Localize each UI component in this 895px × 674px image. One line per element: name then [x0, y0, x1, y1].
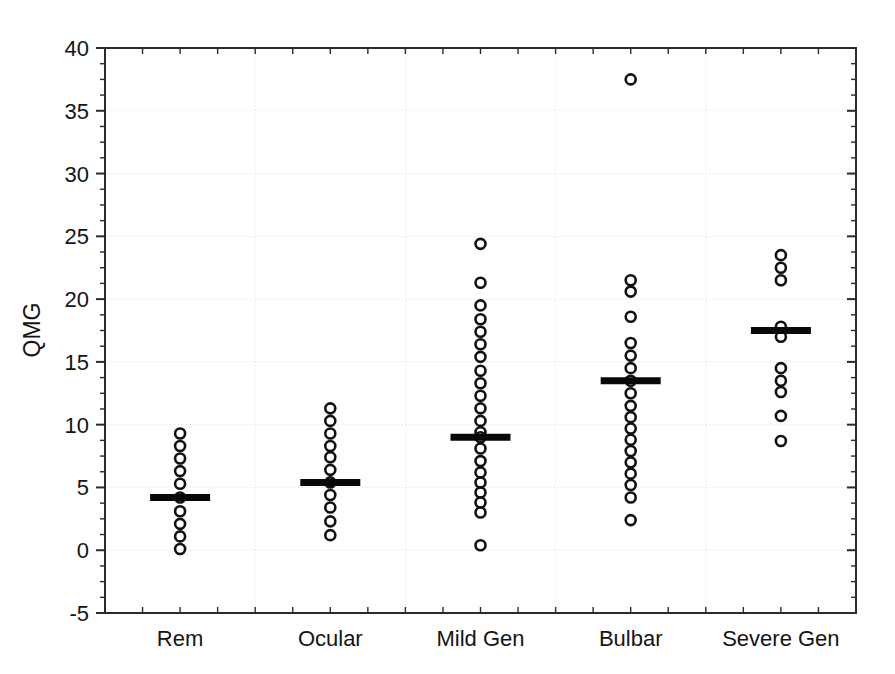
- data-point: [776, 250, 786, 260]
- data-point: [626, 275, 636, 285]
- data-point: [325, 441, 335, 451]
- y-axis-title: QMG: [19, 303, 45, 358]
- data-point: [476, 314, 486, 324]
- data-point: [776, 275, 786, 285]
- grid-layer: [106, 49, 855, 612]
- series-group-mild-gen: [451, 239, 511, 550]
- plot-frame: [105, 48, 856, 613]
- data-point: [325, 516, 335, 526]
- y-axis-tick-label: 20: [65, 287, 89, 312]
- y-axis-tick-label: 25: [65, 224, 89, 249]
- x-axis-category-label-1: Rem: [157, 626, 203, 651]
- x-axis-category-label-5: Severe Gen: [722, 626, 839, 651]
- data-point: [626, 312, 636, 322]
- data-point: [175, 544, 185, 554]
- data-point: [626, 469, 636, 479]
- data-point: [476, 239, 486, 249]
- data-point: [325, 490, 335, 500]
- data-point: [776, 387, 786, 397]
- data-point: [325, 530, 335, 540]
- data-point: [476, 391, 486, 401]
- data-point: [776, 376, 786, 386]
- data-point: [626, 363, 636, 373]
- data-point: [776, 436, 786, 446]
- data-point: [175, 454, 185, 464]
- data-point: [626, 480, 636, 490]
- data-point: [626, 457, 636, 467]
- y-axis-tick-labels: -50510152025303540: [65, 36, 89, 626]
- data-point: [476, 416, 486, 426]
- series-group-rem: [150, 428, 210, 554]
- series-group-severe-gen: [751, 250, 811, 446]
- data-point: [476, 508, 486, 518]
- chart-canvas: -50510152025303540 RemOcularMild GenBulb…: [0, 0, 895, 674]
- data-point: [776, 363, 786, 373]
- series-group-bulbar: [601, 74, 661, 525]
- x-axis-category-labels: RemOcularMild GenBulbarSevere Gen: [157, 626, 840, 651]
- y-axis-tick-label: 10: [65, 413, 89, 438]
- data-point: [476, 456, 486, 466]
- y-axis-tick-label: 35: [65, 99, 89, 124]
- data-point: [476, 444, 486, 454]
- y-axis-tick-label: 40: [65, 36, 89, 61]
- data-point: [476, 327, 486, 337]
- data-point: [626, 515, 636, 525]
- data-point: [325, 465, 335, 475]
- data-point: [175, 479, 185, 489]
- data-point: [626, 287, 636, 297]
- data-point: [476, 498, 486, 508]
- data-point: [626, 401, 636, 411]
- data-point: [476, 477, 486, 487]
- data-point: [476, 467, 486, 477]
- data-point: [776, 411, 786, 421]
- data-point: [476, 339, 486, 349]
- data-point: [776, 263, 786, 273]
- data-point: [626, 74, 636, 84]
- y-axis-tick-label: 30: [65, 162, 89, 187]
- data-point: [175, 519, 185, 529]
- data-point: [626, 435, 636, 445]
- data-point: [626, 351, 636, 361]
- y-axis-tick-label: 5: [77, 475, 89, 500]
- data-point: [325, 452, 335, 462]
- data-point: [325, 428, 335, 438]
- data-point: [325, 503, 335, 513]
- data-point: [175, 466, 185, 476]
- y-axis-tick-label: 15: [65, 350, 89, 375]
- x-axis-category-label-2: Ocular: [298, 626, 363, 651]
- data-point: [626, 338, 636, 348]
- data-point-layer: [150, 74, 811, 554]
- data-point: [175, 531, 185, 541]
- data-point: [626, 446, 636, 456]
- data-point: [175, 428, 185, 438]
- y-axis-tick-label: -5: [69, 601, 89, 626]
- data-point: [476, 300, 486, 310]
- data-point: [476, 366, 486, 376]
- data-point: [476, 487, 486, 497]
- data-point: [626, 412, 636, 422]
- data-point: [476, 403, 486, 413]
- x-axis-category-label-4: Bulbar: [599, 626, 663, 651]
- data-point: [476, 378, 486, 388]
- series-group-ocular: [300, 403, 360, 540]
- y-axis-tick-label: 0: [77, 538, 89, 563]
- data-point: [476, 278, 486, 288]
- data-point: [626, 388, 636, 398]
- data-point: [175, 506, 185, 516]
- x-axis-category-label-3: Mild Gen: [436, 626, 524, 651]
- scatter-chart-figure: -50510152025303540 RemOcularMild GenBulb…: [0, 0, 895, 674]
- data-point: [325, 403, 335, 413]
- data-point: [476, 352, 486, 362]
- data-point: [175, 441, 185, 451]
- data-point: [476, 540, 486, 550]
- data-point: [626, 492, 636, 502]
